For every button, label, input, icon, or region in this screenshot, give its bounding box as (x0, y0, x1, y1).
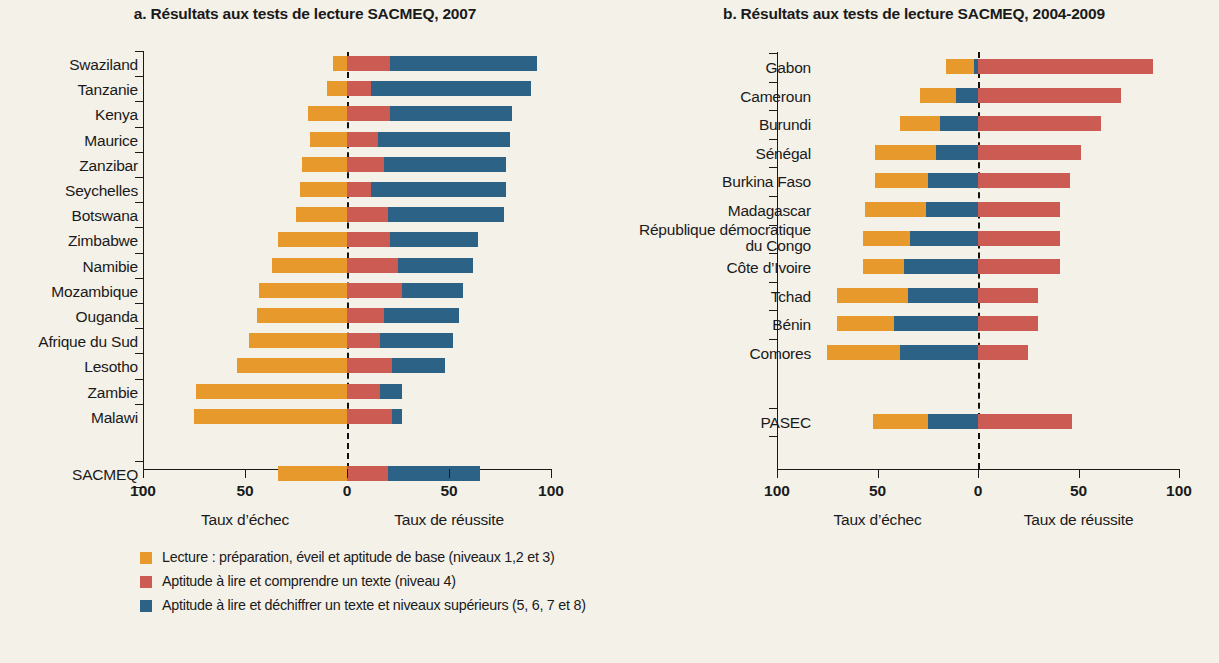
bar-segment-level5plus (380, 384, 402, 399)
axis-caption-success: Taux de réussite (359, 511, 539, 529)
bar-segment-failure (259, 283, 347, 298)
axis-tick (135, 101, 144, 102)
axis-tick (135, 227, 144, 228)
bar-segment-niveau1 (894, 316, 978, 331)
bar-segment-niveau2 (865, 202, 925, 217)
axis-tick (135, 76, 144, 77)
bar-segment-failure (310, 132, 347, 147)
x-axis-tick-label: 50 (215, 482, 275, 500)
category-label: Gabon (609, 60, 811, 76)
category-label: Tchad (609, 289, 811, 305)
bar-segment-niveau2 (900, 116, 940, 131)
bar-segment-failure (249, 333, 347, 348)
bar-segment-failure (308, 106, 347, 121)
bar-segment-niveau3 (978, 173, 1070, 188)
x-axis-tick-label: 0 (317, 482, 377, 500)
axis-tick (135, 177, 144, 178)
legend-swatch-icon (140, 552, 152, 564)
category-label: Ouganda (0, 309, 138, 325)
bar-segment-level5plus (380, 333, 453, 348)
bar-segment-niveau3 (978, 414, 1072, 429)
axis-tick (135, 202, 144, 203)
axis-tick (769, 408, 778, 409)
bar-segment-niveau1 (936, 145, 978, 160)
bar-segment-niveau2 (875, 173, 927, 188)
x-axis-tick (978, 469, 979, 478)
bar-segment-level5plus (388, 207, 504, 222)
category-label: Burundi (609, 117, 811, 133)
bar-segment-level4 (347, 56, 390, 71)
panel-b-title: b. Résultats aux tests de lecture SACMEQ… (609, 5, 1219, 23)
bar-segment-niveau3 (978, 259, 1060, 274)
axis-tick (769, 196, 778, 197)
category-label: SACMEQ (0, 467, 138, 483)
bar-segment-niveau1 (928, 173, 978, 188)
x-axis-tick-label: 50 (1049, 482, 1109, 500)
bar-segment-failure (296, 207, 347, 222)
bar-segment-niveau2 (920, 88, 956, 103)
legend-label: Aptitude à lire et comprendre un texte (… (162, 573, 600, 590)
axis-tick (769, 282, 778, 283)
axis-tick (769, 82, 778, 83)
x-axis-tick (347, 469, 348, 478)
bar-segment-level5plus (392, 409, 402, 424)
bar-segment-level4 (347, 132, 378, 147)
bar-segment-failure (278, 466, 347, 481)
bar-segment-niveau3 (978, 59, 1153, 74)
x-axis-tick (143, 469, 144, 478)
category-label: Maurice (0, 133, 138, 149)
bar-segment-niveau1 (926, 202, 978, 217)
axis-tick (769, 339, 778, 340)
bar-segment-niveau2 (827, 345, 899, 360)
axis-tick (135, 461, 144, 462)
category-label: Afrique du Sud (0, 334, 138, 350)
bar-segment-level5plus (378, 132, 511, 147)
category-label: Zanzibar (0, 158, 138, 174)
axis-tick (769, 253, 778, 254)
x-axis-tick-label: 50 (419, 482, 479, 500)
bar-segment-level4 (347, 466, 388, 481)
category-label: Sénégal (609, 146, 811, 162)
figure-root: a. Résultats aux tests de lecture SACMEQ… (0, 0, 1219, 663)
axis-tick (135, 379, 144, 380)
bar-segment-level4 (347, 207, 388, 222)
bar-segment-level4 (347, 384, 380, 399)
panel-b-plot: GabonCamerounBurundiSénégalBurkina FasoM… (609, 48, 1219, 468)
bar-segment-level5plus (392, 358, 445, 373)
axis-tick (769, 167, 778, 168)
bar-segment-niveau2 (863, 259, 903, 274)
bar-segment-failure (237, 358, 347, 373)
bar-segment-level5plus (390, 106, 512, 121)
x-axis-tick-label: 100 (747, 482, 807, 500)
category-label: Zimbabwe (0, 233, 138, 249)
bar-segment-level5plus (390, 56, 537, 71)
category-label: Madagascar (609, 203, 811, 219)
axis-tick (769, 225, 778, 226)
bar-segment-niveau3 (978, 345, 1028, 360)
category-label: Zambie (0, 385, 138, 401)
bar-segment-niveau3 (978, 288, 1038, 303)
bar-segment-niveau1 (900, 345, 978, 360)
x-axis-tick-label: 100 (521, 482, 581, 500)
axis-tick (769, 436, 778, 437)
bar-segment-niveau3 (978, 231, 1060, 246)
category-label: Tanzanie (0, 82, 138, 98)
bar-segment-level5plus (388, 466, 480, 481)
bar-segment-niveau1 (904, 259, 978, 274)
bar-segment-niveau1 (910, 231, 978, 246)
panel-a: a. Résultats aux tests de lecture SACMEQ… (0, 0, 610, 663)
x-axis-tick (878, 469, 879, 478)
x-axis-tick (551, 469, 552, 478)
bar-segment-failure (278, 232, 347, 247)
axis-tick (135, 328, 144, 329)
bar-segment-level4 (347, 308, 384, 323)
bar-segment-level4 (347, 358, 392, 373)
legend-item: Aptitude à lire et déchiffrer un texte e… (140, 597, 600, 614)
bar-segment-level5plus (384, 308, 459, 323)
axis-tick (135, 51, 144, 52)
bar-segment-niveau3 (978, 145, 1081, 160)
axis-caption-success: Taux de réussite (989, 511, 1169, 529)
x-axis-tick (1079, 469, 1080, 478)
bar-segment-level4 (347, 106, 390, 121)
bar-segment-niveau2 (863, 231, 909, 246)
